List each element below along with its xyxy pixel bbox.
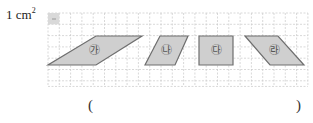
- grid-figure: ㉮㉯㉰㉱: [0, 0, 313, 95]
- shape-label-ra: ㉱: [269, 44, 280, 57]
- answer-blank[interactable]: [100, 99, 292, 115]
- shapes-group: ㉮㉯㉰㉱: [48, 36, 304, 65]
- shape-label-ga: ㉮: [89, 44, 100, 57]
- shape-label-da: ㉰: [211, 44, 222, 57]
- answer-open-paren: (: [88, 97, 93, 114]
- shape-label-na: ㉯: [161, 44, 172, 57]
- answer-close-paren: ): [296, 97, 301, 114]
